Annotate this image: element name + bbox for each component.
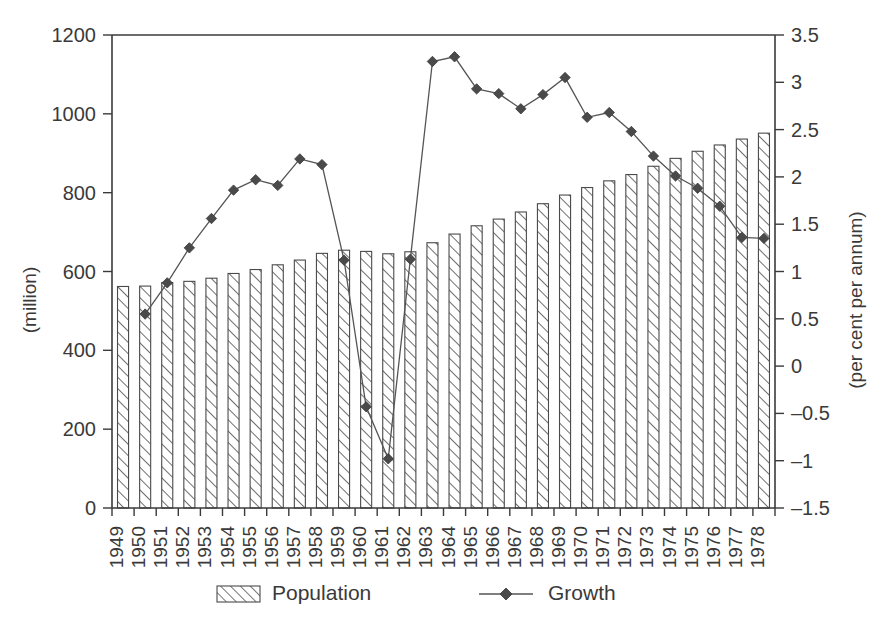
bar-1975 — [692, 151, 703, 508]
bar-1978 — [758, 133, 769, 508]
y-tick-label-0: 0 — [85, 497, 96, 519]
bar-1974 — [670, 158, 681, 508]
y-tick-label-1200: 1200 — [52, 24, 97, 46]
y-tick-label-400: 400 — [63, 339, 96, 361]
bar-1971 — [604, 181, 615, 508]
bar-1955 — [250, 270, 261, 508]
bar-1973 — [648, 166, 659, 508]
y2-axis-title: (per cent per annum) — [845, 211, 866, 388]
x-tick-label-1953: 1953 — [194, 526, 215, 568]
x-tick-label-1950: 1950 — [128, 526, 149, 568]
bar-1966 — [493, 219, 504, 508]
legend-swatch-population — [217, 586, 260, 602]
y-tick-label-600: 600 — [63, 261, 96, 283]
bar-1972 — [626, 175, 637, 508]
chart-container: 020040060080010001200 –1.5–1–0.500.511.5… — [0, 0, 887, 640]
x-tick-label-1971: 1971 — [592, 526, 613, 568]
y-axis-title: (million) — [19, 267, 40, 334]
bar-1969 — [560, 195, 571, 508]
population-growth-chart: 020040060080010001200 –1.5–1–0.500.511.5… — [0, 0, 887, 640]
x-tick-label-1961: 1961 — [371, 526, 392, 568]
x-tick-label-1969: 1969 — [548, 526, 569, 568]
x-tick-label-1972: 1972 — [614, 526, 635, 568]
x-tick-label-1955: 1955 — [239, 526, 260, 568]
bar-1970 — [582, 188, 593, 508]
y2-tick-label--1.5: –1.5 — [791, 497, 830, 519]
bar-1956 — [272, 265, 283, 508]
bar-1954 — [228, 273, 239, 508]
x-tick-label-1952: 1952 — [172, 526, 193, 568]
x-tick-label-1959: 1959 — [327, 526, 348, 568]
x-tick-label-1974: 1974 — [659, 526, 680, 569]
x-tick-label-1954: 1954 — [217, 526, 238, 569]
x-tick-label-1956: 1956 — [261, 526, 282, 568]
y2-tick-label-1: 1 — [791, 261, 802, 283]
y-tick-label-800: 800 — [63, 182, 96, 204]
x-tick-label-1958: 1958 — [305, 526, 326, 568]
y2-tick-label-3.5: 3.5 — [791, 24, 819, 46]
x-tick-label-1960: 1960 — [349, 526, 370, 568]
x-tick-label-1963: 1963 — [415, 526, 436, 568]
bar-1957 — [294, 260, 305, 508]
y2-tick-label-2: 2 — [791, 166, 802, 188]
bar-1961 — [383, 254, 394, 508]
x-tick-label-1973: 1973 — [636, 526, 657, 568]
x-tick-label-1965: 1965 — [460, 526, 481, 568]
bar-1953 — [206, 278, 217, 508]
y2-tick-label-3: 3 — [791, 71, 802, 93]
x-tick-label-1975: 1975 — [681, 526, 702, 568]
x-tick-label-1978: 1978 — [747, 526, 768, 568]
y2-tick-label-0: 0 — [791, 355, 802, 377]
bar-1968 — [537, 204, 548, 508]
y2-tick-label--1: –1 — [791, 450, 813, 472]
x-tick-label-1957: 1957 — [283, 526, 304, 568]
x-tick-label-1964: 1964 — [438, 526, 459, 569]
y2-tick-label-0.5: 0.5 — [791, 308, 819, 330]
x-tick-label-1970: 1970 — [570, 526, 591, 568]
bar-1949 — [118, 286, 129, 508]
bar-1958 — [316, 253, 327, 508]
bar-1967 — [515, 212, 526, 508]
y2-tick-label--0.5: –0.5 — [791, 402, 830, 424]
bar-1951 — [162, 283, 173, 508]
bar-1963 — [427, 243, 438, 508]
legend-label-growth: Growth — [548, 581, 616, 604]
y-tick-label-200: 200 — [63, 418, 96, 440]
x-tick-label-1966: 1966 — [482, 526, 503, 568]
y-tick-label-1000: 1000 — [52, 103, 97, 125]
x-tick-label-1967: 1967 — [504, 526, 525, 568]
bar-1964 — [449, 234, 460, 508]
bar-1952 — [184, 281, 195, 508]
x-tick-label-1976: 1976 — [703, 526, 724, 568]
x-tick-label-1951: 1951 — [150, 526, 171, 568]
bar-1977 — [736, 139, 747, 508]
x-tick-label-1962: 1962 — [393, 526, 414, 568]
legend-label-population: Population — [272, 581, 371, 604]
x-tick-label-1977: 1977 — [725, 526, 746, 568]
y2-tick-label-2.5: 2.5 — [791, 119, 819, 141]
bar-1976 — [714, 145, 725, 508]
bar-1965 — [471, 226, 482, 508]
x-tick-label-1968: 1968 — [526, 526, 547, 568]
y2-tick-label-1.5: 1.5 — [791, 213, 819, 235]
x-tick-label-1949: 1949 — [106, 526, 127, 568]
